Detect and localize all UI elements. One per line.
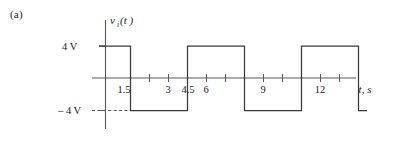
y-label-positive: 4 V bbox=[62, 41, 78, 52]
y-axis-label-var: v bbox=[110, 14, 115, 26]
x-tick-label-1: 1.5 bbox=[117, 84, 130, 95]
x-tick-label-6: 12 bbox=[315, 84, 326, 95]
y-label-negative: – 4 V bbox=[57, 105, 82, 116]
x-axis-label: t, s bbox=[359, 83, 372, 95]
x-tick-label-5: 9 bbox=[260, 84, 265, 95]
y-axis-label-argument: (t ) bbox=[120, 14, 133, 27]
x-tick-label-3: 4.5 bbox=[181, 84, 194, 95]
figure-container: (a) 4 V – 4 V bbox=[0, 0, 400, 146]
y-axis-label-subscript: i bbox=[117, 20, 119, 29]
waveform-plot: 4 V – 4 V v i (t ) 1.5 3 4.5 6 9 12 t, s bbox=[0, 0, 400, 146]
y-axis-label: v i (t ) bbox=[110, 14, 133, 29]
x-tick-label-2: 3 bbox=[165, 84, 170, 95]
x-tick-label-4: 6 bbox=[203, 84, 208, 95]
